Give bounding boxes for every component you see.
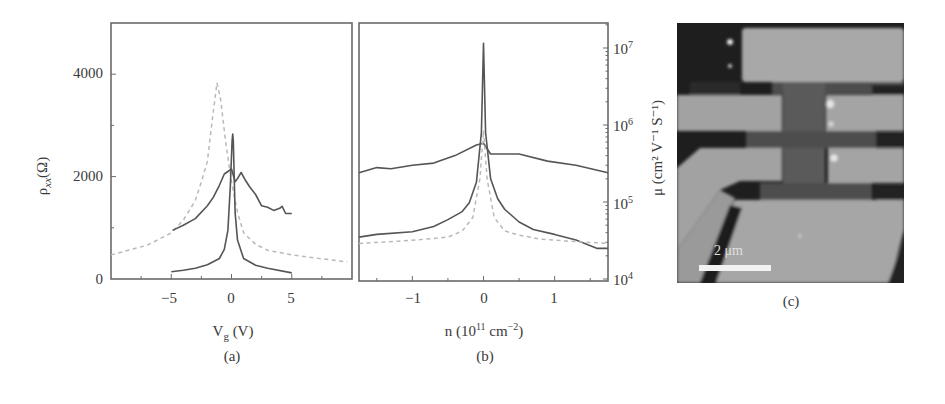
micrograph: 2 μm [677, 23, 904, 283]
ytick-0: 0 [96, 271, 104, 287]
panel-a-curves [111, 83, 347, 273]
panel-b-xtick-labels: −1 0 1 [405, 290, 558, 306]
ytick-1e4: 104 [613, 270, 633, 288]
panel-b-caption: (b) [476, 348, 494, 365]
xtick-0: 0 [227, 290, 235, 306]
series-dashed-light-gray- [111, 83, 347, 262]
panel-a-ylabel: ρxx(Ω) [34, 157, 53, 195]
series-solid-broad [359, 143, 608, 173]
xtick-neg1: −1 [405, 290, 421, 306]
panel-a: 0 2000 4000 −5 0 5 Vg (V) ρxx(Ω) (a) [34, 23, 352, 365]
panel-a-xlabel: Vg (V) [213, 323, 254, 342]
xtick-5: 5 [287, 290, 295, 306]
panel-b-ylabel: μ (cm² V⁻¹ S⁻¹) [649, 100, 666, 196]
panel-b: −1 0 1 104 105 106 107 n (1011 cm−2) μ (… [359, 23, 666, 365]
xtick-neg5: −5 [161, 290, 177, 306]
ytick-4000: 4000 [73, 65, 103, 81]
series-solid-sharp [359, 43, 608, 248]
panel-b-ticks [377, 25, 608, 281]
panel-a-caption: (a) [224, 348, 241, 365]
xtick-1: 1 [550, 290, 558, 306]
panel-b-ytick-labels: 104 105 106 107 [613, 39, 633, 288]
ytick-1e6: 106 [613, 116, 633, 134]
panel-a-ytick-labels: 0 2000 4000 [73, 65, 103, 287]
panel-a-ticks [111, 74, 322, 279]
figure: 0 2000 4000 −5 0 5 Vg (V) ρxx(Ω) (a) −1 … [0, 0, 945, 404]
ytick-2000: 2000 [73, 168, 103, 184]
scale-bar [699, 265, 771, 271]
ytick-1e5: 105 [613, 194, 633, 212]
panel-c: 2 μm (c) [677, 23, 904, 310]
panel-a-xtick-labels: −5 0 5 [161, 290, 295, 306]
series-dashed-light-gray- [359, 130, 608, 243]
panel-b-xlabel: n (1011 cm−2) [445, 321, 524, 340]
panel-c-caption: (c) [783, 293, 800, 310]
xtick-0: 0 [480, 290, 488, 306]
scale-bar-label: 2 μm [714, 243, 743, 258]
ytick-1e7: 107 [613, 39, 633, 57]
panel-b-curves [359, 43, 608, 248]
series-solid-broad [173, 169, 292, 231]
